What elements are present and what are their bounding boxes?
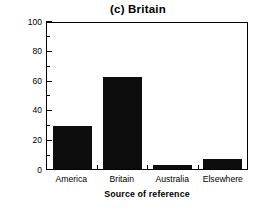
- y-tick-label: 40: [2, 106, 42, 115]
- y-tick-major: [46, 169, 52, 170]
- y-tick-label: 80: [2, 47, 42, 56]
- x-tick: [147, 165, 148, 170]
- bar-britain: [103, 77, 142, 170]
- y-tick-label: 60: [2, 77, 42, 86]
- y-tick-label: 20: [2, 136, 42, 145]
- x-axis-category-labels: AmericaBritainAustraliaElsewhere: [46, 174, 248, 184]
- x-tick: [97, 165, 98, 170]
- y-tick-minor: [46, 95, 50, 96]
- x-category-label: Britain: [97, 174, 148, 184]
- bar-america: [53, 126, 92, 169]
- x-category-label: America: [46, 174, 97, 184]
- y-tick-major: [46, 21, 52, 22]
- y-tick-major: [46, 110, 52, 111]
- plot-area: [46, 22, 248, 170]
- bar-australia: [153, 165, 192, 169]
- bar-series: [47, 23, 247, 169]
- bar-chart-figure: (c) Britain Percentage of references 020…: [0, 0, 258, 209]
- y-tick-major: [46, 81, 52, 82]
- bar-slot: [197, 23, 247, 169]
- x-axis-title: Source of reference: [46, 189, 248, 200]
- y-tick-minor: [46, 66, 50, 67]
- chart-title: (c) Britain: [0, 2, 258, 16]
- bar-slot: [47, 23, 97, 169]
- bar-elsewhere: [203, 159, 242, 169]
- x-tick: [198, 165, 199, 170]
- y-tick-label: 100: [2, 18, 42, 27]
- y-tick-minor: [46, 36, 50, 37]
- y-tick-label: 0: [2, 166, 42, 175]
- bar-slot: [147, 23, 197, 169]
- bar-slot: [97, 23, 147, 169]
- y-tick-minor: [46, 155, 50, 156]
- y-tick-major: [46, 51, 52, 52]
- y-tick-major: [46, 140, 52, 141]
- x-category-label: Australia: [147, 174, 198, 184]
- y-tick-minor: [46, 125, 50, 126]
- x-category-label: Elsewhere: [198, 174, 249, 184]
